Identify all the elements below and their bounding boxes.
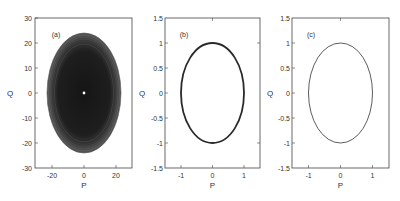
- ytick-a-2: 10: [24, 65, 32, 72]
- ytick-b-2: 0.5: [153, 65, 163, 72]
- panel-label-c: (c): [307, 31, 315, 39]
- ytick-b-1: 1: [159, 40, 163, 47]
- xlabel-b: P: [210, 181, 215, 190]
- panel-b: -1 0 1 1.5 1 0.5 0 -0.5 -1 -1.5 P Q (b): [139, 15, 260, 191]
- ytick-a-1: 20: [24, 40, 32, 47]
- ytick-c-1: 1: [286, 40, 290, 47]
- axes-box-c: [292, 18, 389, 168]
- ylabel-c: Q: [267, 89, 273, 98]
- xtick-b-0: -1: [178, 172, 184, 179]
- ytick-b-6: -1.5: [151, 165, 163, 172]
- xtick-c-2: 1: [371, 172, 375, 179]
- ytick-b-4: -0.5: [151, 115, 163, 122]
- panel-a: -20 0 20 30 20 10 0 -10 -20 -30 P Q (a): [7, 15, 132, 191]
- ytick-a-3: 0: [28, 90, 32, 97]
- xtick-b-1: 0: [211, 172, 215, 179]
- ylabel-a: Q: [7, 89, 13, 98]
- figure: -20 0 20 30 20 10 0 -10 -20 -30 P Q (a) …: [0, 0, 400, 201]
- ytick-c-0: 1.5: [280, 15, 290, 22]
- ytick-a-6: -30: [22, 165, 32, 172]
- ytick-c-2: 0.5: [280, 65, 290, 72]
- panel-label-a: (a): [52, 31, 61, 39]
- xtick-a-1: 0: [82, 172, 86, 179]
- xlabel-a: P: [81, 181, 86, 190]
- ytick-a-0: 30: [24, 15, 32, 22]
- panel-c: -1 0 1 1.5 1 0.5 0 -0.5 -1 -1.5 P Q (c): [267, 15, 389, 191]
- ytick-c-6: -1.5: [278, 165, 290, 172]
- ytick-a-4: -10: [22, 115, 32, 122]
- xtick-b-2: 1: [242, 172, 246, 179]
- xtick-c-1: 0: [339, 172, 343, 179]
- ytick-c-5: -1: [284, 140, 290, 147]
- ytick-c-4: -0.5: [278, 115, 290, 122]
- ytick-b-3: 0: [159, 90, 163, 97]
- ytick-b-5: -1: [157, 140, 163, 147]
- axes-box-b: [165, 18, 260, 168]
- xtick-c-0: -1: [305, 172, 311, 179]
- panel-label-b: (b): [180, 31, 189, 39]
- ylabel-b: Q: [139, 89, 145, 98]
- ytick-b-0: 1.5: [153, 15, 163, 22]
- xtick-a-0: -20: [47, 172, 57, 179]
- ytick-a-5: -20: [22, 140, 32, 147]
- xtick-a-2: 20: [112, 172, 120, 179]
- xlabel-c: P: [338, 181, 343, 190]
- origin-point-a: [83, 92, 86, 95]
- ytick-c-3: 0: [286, 90, 290, 97]
